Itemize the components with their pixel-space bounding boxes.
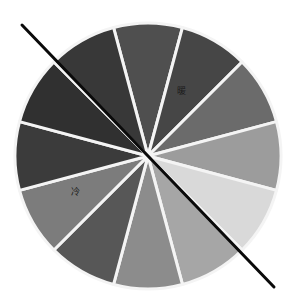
- caption: [16, 296, 216, 304]
- color-wheel: [0, 0, 296, 307]
- warm-label: 暖: [177, 87, 186, 96]
- cool-label: 冷: [71, 188, 80, 197]
